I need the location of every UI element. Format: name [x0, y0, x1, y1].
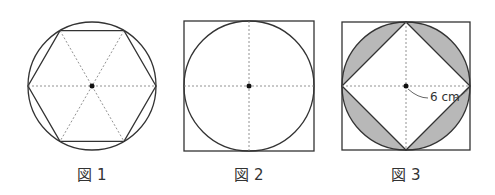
center-point	[90, 84, 95, 89]
radius-label: 6 cm	[430, 90, 460, 104]
center-point	[404, 84, 409, 89]
center-point	[247, 84, 252, 89]
caption-figure-1: 図 1	[52, 163, 132, 184]
caption-figure-2: 図 2	[209, 163, 289, 184]
figure-3	[342, 22, 470, 150]
caption-figure-3: 図 3	[366, 163, 446, 184]
figure-1	[28, 22, 156, 150]
figure-2	[184, 21, 314, 151]
